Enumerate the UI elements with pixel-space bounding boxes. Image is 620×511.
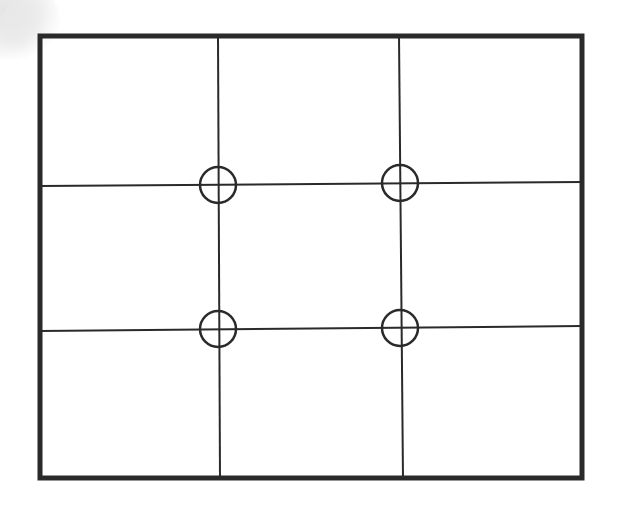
vertical-third-line-1 [218, 36, 220, 478]
horizontal-third-line-1 [40, 182, 582, 186]
horizontal-third-line-2 [40, 326, 582, 331]
vertical-third-line-2 [399, 36, 403, 478]
thirds-grid-lines [40, 36, 582, 478]
outer-frame [40, 36, 582, 478]
power-points [200, 165, 418, 347]
rule-of-thirds-diagram [0, 0, 620, 511]
